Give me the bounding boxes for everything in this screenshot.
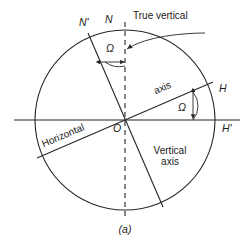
figure-caption: (a) <box>100 224 150 236</box>
label-n: N <box>105 13 113 25</box>
label-vertical-axis-line2: axis <box>142 156 198 167</box>
top-angle-arc <box>105 62 125 67</box>
label-omega-top: Ω <box>106 42 114 54</box>
label-omega-right: Ω <box>178 101 186 113</box>
true-vertical-leader-arrow <box>127 33 205 49</box>
diagram-figure: N' N True vertical Ω axis H H' Ω Horizon… <box>0 0 251 244</box>
label-true-vertical: True vertical <box>133 10 188 21</box>
diagram-canvas <box>0 0 251 244</box>
label-vertical-axis-line1: Vertical <box>142 145 198 156</box>
label-h: H <box>219 82 227 94</box>
label-n-prime: N' <box>79 16 89 28</box>
label-vertical-axis: Vertical axis <box>142 145 198 167</box>
right-angle-arc <box>193 92 198 120</box>
label-origin: O <box>113 122 121 134</box>
label-h-prime: H' <box>222 122 232 134</box>
